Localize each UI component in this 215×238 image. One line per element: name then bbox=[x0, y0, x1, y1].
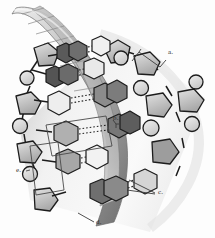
deoxyribose-pentagon bbox=[16, 92, 41, 114]
label-a: a. bbox=[168, 48, 173, 56]
pyrimidine-base-hexagon bbox=[48, 91, 70, 115]
phosphate-circle bbox=[23, 167, 38, 182]
purine-base-double-ring bbox=[69, 41, 87, 61]
phosphate-circle bbox=[143, 120, 159, 136]
purine-base-double-ring bbox=[104, 176, 128, 201]
pyrimidine-base-hexagon bbox=[92, 36, 110, 56]
label-d: d. bbox=[96, 218, 102, 226]
deoxyribose-pentagon bbox=[134, 52, 160, 75]
label-e: e. bbox=[16, 166, 21, 174]
phosphate-circle bbox=[13, 119, 28, 134]
pyrimidine-base-hexagon bbox=[134, 169, 157, 194]
phosphate-circle bbox=[114, 51, 128, 65]
phosphate-circle bbox=[20, 71, 34, 85]
phosphate-circle bbox=[185, 117, 200, 132]
phosphate-circle bbox=[189, 75, 203, 89]
phosphate-circle bbox=[134, 81, 149, 96]
label-b: b. bbox=[113, 114, 119, 122]
purine-base-double-ring bbox=[59, 64, 78, 85]
label-c: c. bbox=[158, 188, 163, 196]
pyrimidine-base-hexagon bbox=[84, 58, 104, 79]
dna-diagram-svg bbox=[0, 0, 215, 238]
dna-structure-figure: a. b. c. d. e. bbox=[0, 0, 215, 238]
